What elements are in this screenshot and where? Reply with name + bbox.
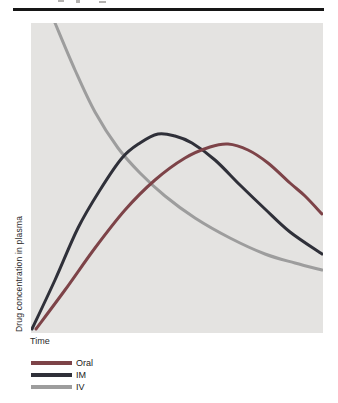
figure-page: Drug concentration in plasma Time Oral I… — [0, 0, 338, 403]
x-axis-label: Time — [30, 336, 50, 346]
oral-line-swatch — [31, 361, 72, 365]
im-line-swatch — [31, 373, 72, 377]
legend-item-im: IM — [31, 369, 93, 381]
y-axis-label: Drug concentration in plasma — [14, 216, 24, 332]
legend: Oral IM IV — [31, 357, 93, 393]
legend-label-iv: IV — [76, 381, 85, 393]
top-rule — [13, 8, 324, 11]
legend-label-im: IM — [76, 369, 86, 381]
legend-item-oral: Oral — [31, 357, 93, 369]
legend-label-oral: Oral — [76, 357, 93, 369]
legend-item-iv: IV — [31, 381, 93, 393]
plot-area — [31, 23, 323, 333]
iv-curve — [55, 23, 322, 270]
plasma-curves-svg — [31, 23, 323, 333]
cropped-text-remnant — [0, 0, 338, 4]
iv-line-swatch — [31, 385, 72, 389]
oral-curve — [36, 144, 322, 329]
